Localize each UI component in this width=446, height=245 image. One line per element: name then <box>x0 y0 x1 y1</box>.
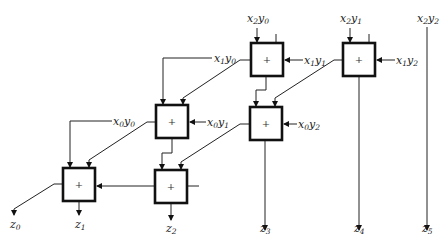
adder-B: + <box>343 43 375 76</box>
svg-text:+: + <box>168 116 176 127</box>
label-x2y0: x2y0 <box>247 12 269 26</box>
label-z0: z0 <box>9 218 21 232</box>
svg-text:+: + <box>75 179 83 190</box>
label-z3: z3 <box>259 222 271 236</box>
label-x1y1: x1y1 <box>304 54 326 68</box>
label-z2: z2 <box>165 222 177 236</box>
label-x0y1: x0y1 <box>207 116 229 130</box>
svg-text:+: + <box>263 54 271 65</box>
label-x1y2: x1y2 <box>396 54 418 68</box>
adder-E: + <box>63 168 95 201</box>
adder-F: + <box>155 170 187 203</box>
label-x0y0: x0y0 <box>113 115 135 129</box>
adder-C: + <box>156 105 188 138</box>
svg-text:+: + <box>262 118 270 129</box>
label-z4: z4 <box>353 222 365 236</box>
label-x2y2: x2y2 <box>417 12 439 26</box>
label-x0y2: x0y2 <box>298 118 320 132</box>
adder-array-diagram: + + + + + + x2y0 x2y1 x2y2 x1y0 x1y1 x1y… <box>0 0 446 245</box>
label-z1: z1 <box>74 218 86 232</box>
label-x2y1: x2y1 <box>340 12 362 26</box>
label-x1y0: x1y0 <box>214 52 236 66</box>
adder-A: + <box>251 43 283 76</box>
svg-text:+: + <box>167 181 175 192</box>
adder-D: + <box>250 107 282 140</box>
svg-text:+: + <box>355 54 363 65</box>
label-z5: z5 <box>421 222 433 236</box>
